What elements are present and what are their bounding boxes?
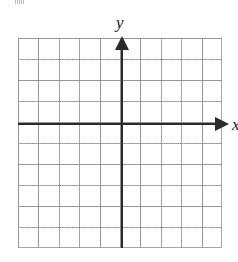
arrow-right-icon [215, 117, 229, 131]
graph-grid [18, 38, 222, 248]
grid-border [18, 38, 222, 248]
arrow-up-icon [115, 36, 129, 50]
y-axis-line [121, 48, 123, 248]
coordinate-plane-figure: y x [0, 0, 238, 262]
y-axis-label: y [116, 14, 124, 31]
x-axis-line [18, 123, 222, 125]
x-axis-label: x [232, 116, 238, 133]
scan-artifact-mark [15, 0, 24, 4]
